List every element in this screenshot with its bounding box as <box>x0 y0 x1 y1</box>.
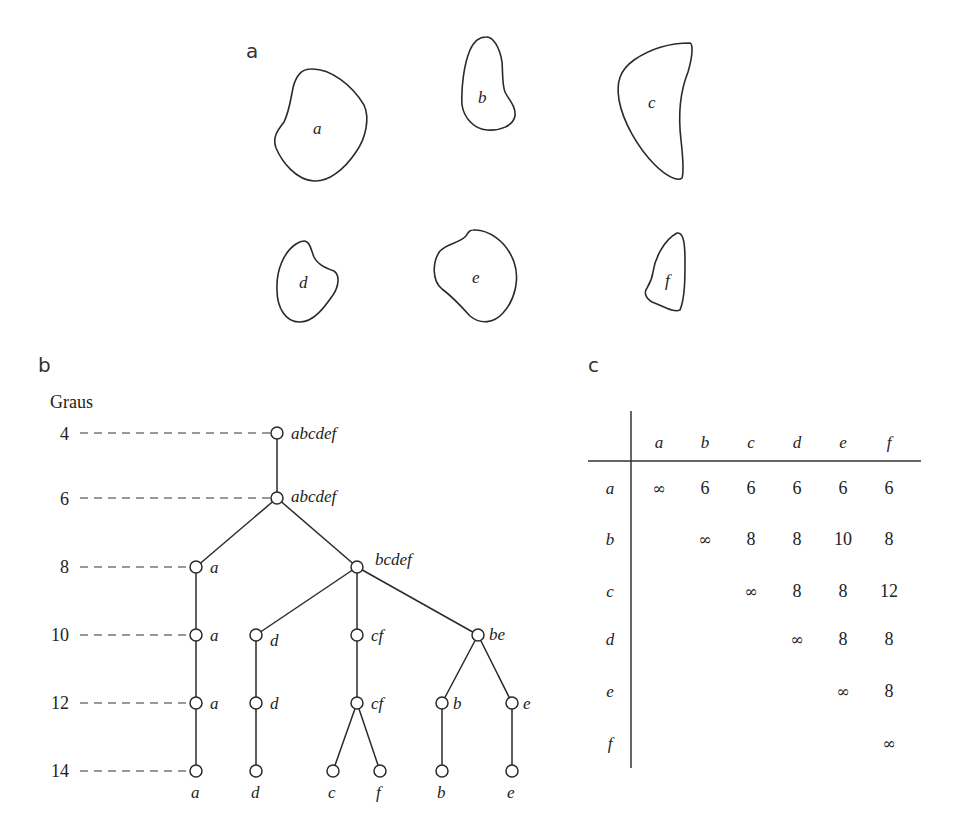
matrix-cell: 8 <box>793 529 802 549</box>
edge <box>478 635 512 703</box>
level-label-8: 8 <box>60 557 69 577</box>
shape-b-outline <box>462 37 515 130</box>
edge <box>256 567 357 635</box>
node-label: b <box>453 694 462 713</box>
column-header: a <box>655 433 664 452</box>
panel-a-label: a <box>246 39 258 63</box>
matrix-cell: ∞ <box>836 682 849 701</box>
matrix-cell: 6 <box>747 478 756 498</box>
matrix-cell: ∞ <box>882 734 895 753</box>
leaf-label: a <box>191 783 200 802</box>
row-header: f <box>608 734 615 753</box>
axis-title-graus: Graus <box>50 392 93 412</box>
shape-a: a <box>275 69 367 181</box>
node-l10-d <box>250 629 262 641</box>
level-label-4: 4 <box>60 424 69 444</box>
node-label: abcdef <box>291 487 339 506</box>
node-l12-cf <box>351 697 363 709</box>
level-label-10: 10 <box>51 625 69 645</box>
shape-e-label: e <box>472 268 480 287</box>
matrix-row-e: ∞ 8 <box>836 681 893 701</box>
node-l12-e <box>506 697 518 709</box>
node-l14-e <box>506 765 518 777</box>
column-header: f <box>887 433 894 452</box>
panel-b: b Graus 4 6 8 10 12 14 <box>38 353 531 802</box>
node-label: abcdef <box>291 424 339 443</box>
node-l12-a <box>190 697 202 709</box>
node-l14-d <box>250 765 262 777</box>
node-l6-abcdef <box>271 492 283 504</box>
panel-c-label: c <box>588 353 599 377</box>
level-label-6: 6 <box>60 489 69 509</box>
node-l10-a <box>190 629 202 641</box>
matrix-cell: ∞ <box>698 530 711 549</box>
matrix-cell: 6 <box>885 478 894 498</box>
shape-a-label: a <box>313 119 322 138</box>
matrix-cell: 6 <box>793 478 802 498</box>
leaf-label: d <box>251 783 260 802</box>
row-header: a <box>606 479 615 498</box>
matrix-cell: 10 <box>834 529 852 549</box>
shape-c-label: c <box>648 93 656 112</box>
row-header: b <box>606 530 615 549</box>
matrix-cell: 8 <box>839 581 848 601</box>
shape-c: c <box>618 43 692 179</box>
node-label: d <box>270 694 279 713</box>
node-l8-bcdef <box>351 561 363 573</box>
column-header: b <box>701 433 710 452</box>
edge <box>442 635 478 703</box>
tree-node-labels: abcdef abcdef a bcdef a d cf be a d cf b… <box>191 424 531 802</box>
row-header: c <box>606 582 614 601</box>
shape-d: d <box>277 241 338 322</box>
panel-c: c a b c d e f a b c d e f ∞ 6 6 6 6 6 <box>588 353 921 768</box>
matrix-row-c: ∞ 8 8 12 <box>744 581 898 601</box>
node-l8-a <box>190 561 202 573</box>
node-label: d <box>270 631 279 650</box>
matrix-row-d: ∞ 8 8 <box>790 629 893 649</box>
edge <box>357 567 478 635</box>
column-header: c <box>747 433 755 452</box>
leaf-label: b <box>437 783 446 802</box>
matrix-cell: 6 <box>839 478 848 498</box>
shape-f: f <box>645 233 685 311</box>
matrix-cell: ∞ <box>652 479 665 498</box>
node-l14-b <box>436 765 448 777</box>
column-header: e <box>839 433 847 452</box>
node-label: be <box>489 625 506 644</box>
shape-f-label: f <box>665 271 672 290</box>
tree-edges <box>196 433 512 771</box>
level-label-14: 14 <box>51 761 69 781</box>
leaf-label: f <box>376 783 383 802</box>
matrix-cell: 8 <box>839 629 848 649</box>
matrix-cell: ∞ <box>790 630 803 649</box>
edge <box>196 498 277 567</box>
matrix-column-headers: a b c d e f <box>655 433 894 452</box>
node-label: a <box>210 558 219 577</box>
level-guides <box>80 433 270 771</box>
node-label: cf <box>371 694 386 713</box>
node-l14-a <box>190 765 202 777</box>
node-l12-b <box>436 697 448 709</box>
matrix-cell: 8 <box>885 681 894 701</box>
leaf-label: c <box>328 783 336 802</box>
shape-e: e <box>434 230 516 322</box>
edge <box>333 703 357 771</box>
matrix-row-b: ∞ 8 8 10 8 <box>698 529 893 549</box>
matrix-cell: 8 <box>885 629 894 649</box>
node-label: a <box>210 626 219 645</box>
shape-b-label: b <box>478 88 487 107</box>
column-header: d <box>793 433 802 452</box>
node-l14-c <box>327 765 339 777</box>
matrix-row-headers: a b c d e f <box>606 479 615 753</box>
node-label: bcdef <box>375 550 414 569</box>
matrix-cell: 8 <box>885 529 894 549</box>
row-header: d <box>606 630 615 649</box>
edge <box>357 703 380 771</box>
node-l4-abcdef <box>271 427 283 439</box>
matrix-cell: 8 <box>793 581 802 601</box>
matrix-cell: 12 <box>880 581 898 601</box>
tree-nodes <box>190 427 518 777</box>
level-label-12: 12 <box>51 693 69 713</box>
level-axis: 4 6 8 10 12 14 <box>51 424 69 781</box>
node-label: a <box>210 694 219 713</box>
